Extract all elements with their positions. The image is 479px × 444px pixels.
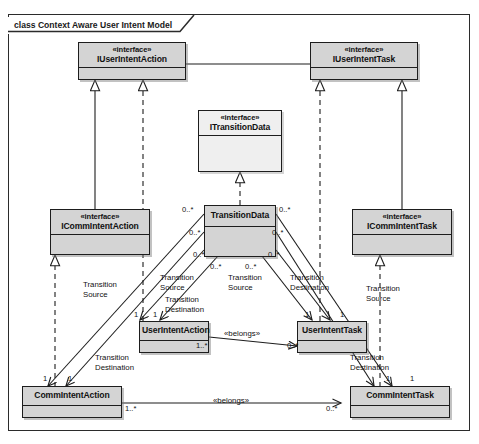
role-label-rl1: Transition Source: [83, 280, 117, 299]
node-icommintenttask-head: «interface» ICommIntentTask: [353, 210, 451, 234]
node-userintenttask-compartment: [298, 340, 366, 349]
mult-belongs-comm-dest: 0..*: [326, 404, 337, 413]
mult-usertask-top-right: 1: [340, 310, 344, 319]
role-label-rl4-line1: Transition: [228, 273, 262, 283]
frame-label: class Context Aware User Intent Model: [8, 17, 188, 34]
mult-useraction-top-right: 1: [153, 310, 157, 319]
node-userintenttask-head: UserIntentTask: [298, 322, 366, 340]
node-itransitiondata[interactable]: «interface» ITransitionData: [198, 110, 282, 172]
node-itransitiondata-compartment: [199, 135, 281, 167]
node-commintenttask-compartment: [351, 405, 449, 414]
node-transitiondata-name: TransitionData: [207, 211, 273, 221]
mult-usertask-top-left: 1: [305, 310, 309, 319]
role-label-rl7-line1: Transition: [95, 353, 134, 363]
node-iuserintenttask-name: IUserIntentTask: [313, 55, 415, 65]
node-commintentaction-name: CommIntentAction: [25, 391, 119, 401]
mult-td-right-top: 0..*: [279, 205, 290, 214]
node-icommintenttask-name: ICommIntentTask: [355, 222, 449, 232]
node-iuserintenttask-compartment: [311, 67, 417, 77]
node-userintentaction-head: UserIntentAction: [140, 322, 208, 340]
node-icommintentaction-name: ICommIntentAction: [53, 222, 147, 232]
assoc-label-belongs-user: «belongs»: [224, 329, 260, 338]
role-label-rl1-line2: Source: [83, 290, 117, 300]
node-icommintentaction[interactable]: «interface» ICommIntentAction: [50, 209, 150, 255]
uml-class-diagram: class Context Aware User Intent Model: [0, 0, 479, 444]
node-commintenttask-head: CommIntentTask: [351, 387, 449, 405]
mult-td-right-bot: 0..*: [268, 250, 279, 259]
role-label-rl1-line1: Transition: [83, 280, 117, 290]
mult-belongs-user-source: 1..*: [196, 341, 207, 350]
role-label-rl3-line1: Transition: [165, 295, 204, 305]
mult-td-bot-left: 0..*: [210, 262, 221, 271]
role-label-rl2-line1: Transition: [160, 273, 194, 283]
mult-belongs-comm-source: 1..*: [125, 404, 136, 413]
node-iuserintenttask[interactable]: «interface» IUserIntentTask: [310, 42, 418, 80]
node-commintentaction-compartment: [23, 405, 121, 414]
node-commintentaction[interactable]: CommIntentAction: [22, 386, 122, 418]
mult-td-right-mid: 0..*: [272, 228, 283, 237]
mult-commaction-top-right: 1: [68, 374, 72, 383]
mult-td-left-mid: 0..*: [189, 228, 200, 237]
role-label-rl8-line1: Transition: [350, 353, 389, 363]
role-label-rl8-line2: Destination: [350, 363, 389, 373]
node-iuserintenttask-head: «interface» IUserIntentTask: [311, 43, 417, 67]
node-itransitiondata-name: ITransitionData: [201, 123, 279, 133]
role-label-rl5-line1: Transition: [290, 273, 329, 283]
mult-commtask-top-right: 1: [410, 374, 414, 383]
node-icommintenttask-compartment: [353, 234, 451, 246]
role-label-rl6-line2: Source: [366, 294, 400, 304]
node-iuserintentaction-compartment: [79, 67, 185, 77]
node-transitiondata-head: TransitionData: [205, 206, 275, 226]
node-commintentaction-head: CommIntentAction: [23, 387, 121, 405]
node-iuserintentaction-name: IUserIntentAction: [81, 55, 183, 65]
role-label-rl3: Transition Destination: [165, 295, 204, 314]
frame-label-container: class Context Aware User Intent Model: [8, 14, 188, 31]
node-itransitiondata-head: «interface» ITransitionData: [199, 111, 281, 135]
mult-commaction-top-left: 1: [43, 374, 47, 383]
role-label-rl7: Transition Destination: [95, 353, 134, 372]
node-commintenttask-name: CommIntentTask: [353, 391, 447, 401]
role-label-rl7-line2: Destination: [95, 363, 134, 373]
mult-td-bot-right: 0..*: [245, 262, 256, 271]
mult-useraction-top-left: 1: [134, 310, 138, 319]
node-iuserintentaction-head: «interface» IUserIntentAction: [79, 43, 185, 67]
role-label-rl8: Transition Destination: [350, 353, 389, 372]
node-transitiondata[interactable]: TransitionData: [204, 205, 276, 257]
node-transitiondata-compartment: [205, 226, 275, 253]
role-label-rl4: Transition Source: [228, 273, 262, 292]
role-label-rl6-line1: Transition: [366, 284, 400, 294]
role-label-rl2-line2: Source: [160, 283, 194, 293]
mult-belongs-user-dest: 0..*: [287, 341, 298, 350]
node-userintenttask[interactable]: UserIntentTask: [297, 321, 367, 353]
node-icommintenttask[interactable]: «interface» ICommIntentTask: [352, 209, 452, 255]
node-icommintentaction-head: «interface» ICommIntentAction: [51, 210, 149, 234]
role-label-rl5: Transition Destination: [290, 273, 329, 292]
role-label-rl5-line2: Destination: [290, 283, 329, 293]
role-label-rl4-line2: Source: [228, 283, 262, 293]
mult-td-left-bot: 0..*: [193, 250, 204, 259]
mult-commtask-top-left: 1: [386, 374, 390, 383]
node-userintenttask-name: UserIntentTask: [300, 326, 364, 336]
node-icommintentaction-compartment: [51, 234, 149, 246]
node-iuserintentaction[interactable]: «interface» IUserIntentAction: [78, 42, 186, 80]
mult-td-left-top: 0..*: [182, 205, 193, 214]
role-label-rl6: Transition Source: [366, 284, 400, 303]
role-label-rl2: Transition Source: [160, 273, 194, 292]
assoc-label-belongs-comm: «belongs»: [213, 396, 249, 405]
node-commintenttask[interactable]: CommIntentTask: [350, 386, 450, 418]
role-label-rl3-line2: Destination: [165, 305, 204, 315]
node-userintentaction-name: UserIntentAction: [142, 326, 206, 336]
